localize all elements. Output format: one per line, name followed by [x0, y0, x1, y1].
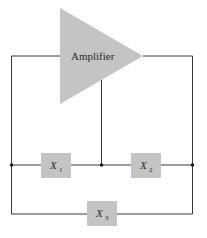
x1-subscript: 1: [59, 166, 63, 174]
left-junction-node: [10, 163, 14, 167]
impedance-x1: X 1: [41, 153, 71, 178]
x2-symbol: X: [139, 159, 148, 171]
amplifier-label: Amplifier: [71, 50, 115, 62]
x3-symbol: X: [95, 207, 104, 219]
amplifier-network-diagram: Amplifier X 1 X 2 X 3: [0, 0, 207, 238]
x2-subscript: 2: [149, 166, 153, 174]
x1-symbol: X: [49, 159, 58, 171]
impedance-x2: X 2: [131, 153, 161, 178]
right-junction-node: [191, 163, 195, 167]
center-junction-node: [100, 163, 104, 167]
impedance-x3: X 3: [87, 201, 117, 226]
amp-output-wire: [117, 56, 193, 214]
x3-subscript: 3: [105, 214, 109, 222]
